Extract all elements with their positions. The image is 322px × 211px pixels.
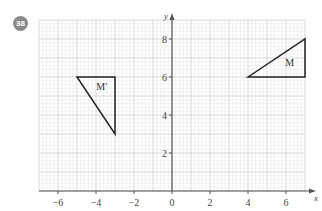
x-tick-label: 2 [208,197,213,208]
x-tick-label: 0 [170,197,175,208]
coordinate-grid: xy−6−4−202462468MM' [0,0,322,211]
x-tick-label: 6 [284,197,289,208]
y-tick-label: 8 [162,34,167,45]
shape-label: M [285,57,294,68]
y-axis-arrow-icon [170,13,175,20]
y-tick-label: 6 [162,72,167,83]
shape-label: M' [96,81,107,92]
y-tick-label: 2 [162,148,167,159]
y-axis-label: y [163,11,168,21]
x-tick-label: −4 [91,197,102,208]
x-tick-label: −2 [129,197,140,208]
x-axis-label: x [313,193,318,203]
x-tick-label: −6 [53,197,64,208]
x-tick-label: 4 [246,197,251,208]
y-tick-label: 4 [162,110,167,121]
